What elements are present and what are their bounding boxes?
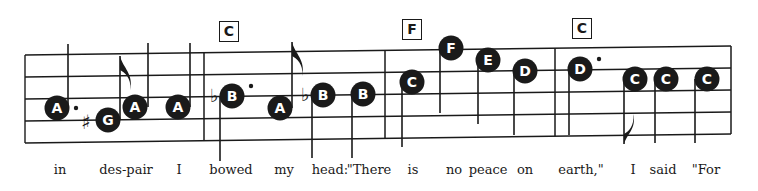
note-letter: C <box>702 71 712 87</box>
eighth-flag <box>624 114 634 144</box>
flat-icon: ♭ <box>301 84 310 105</box>
lyric-syllable: my <box>274 162 294 177</box>
lyric-syllable: peace <box>469 162 508 177</box>
lyric-syllable: is <box>408 162 419 177</box>
chord-symbol: C <box>219 21 239 42</box>
augmentation-dot <box>74 106 78 110</box>
lyric-syllable: I <box>176 162 181 177</box>
note-letter: A <box>173 99 184 115</box>
note-letter: C <box>407 74 417 90</box>
note-letter: D <box>519 63 531 79</box>
lyric-syllable: said <box>650 162 677 177</box>
note-letter: A <box>52 100 63 116</box>
note-letter: B <box>358 86 369 102</box>
chord-symbol: F <box>402 19 422 40</box>
note-letter: E <box>483 52 493 68</box>
eighth-flag <box>292 42 303 76</box>
note-letter: D <box>574 61 586 77</box>
note-letter: A <box>275 100 286 116</box>
note-letter: B <box>227 88 238 104</box>
lyric-syllable: bowed <box>209 162 252 177</box>
lyric-syllable: "There <box>347 162 392 177</box>
lyric-syllable: head: <box>312 162 349 177</box>
lyric-syllable: in <box>54 162 67 177</box>
note-letter: F <box>446 40 456 56</box>
lyric-syllable: I <box>630 162 635 177</box>
flat-icon: ♭ <box>210 85 219 106</box>
lyric-syllable: earth," <box>558 162 603 177</box>
lyric-syllable: "For <box>692 162 720 177</box>
note-letter: C <box>630 71 640 87</box>
note-letter: G <box>102 112 114 128</box>
eighth-flag <box>120 56 131 90</box>
lyric-syllable: des-pair <box>99 162 153 177</box>
note-letter: A <box>130 99 141 115</box>
lyric-syllable: on <box>517 162 533 177</box>
chord-symbol: C <box>572 18 592 39</box>
note-letter: B <box>318 87 329 103</box>
augmentation-dot <box>249 84 253 88</box>
lyric-syllable: no <box>446 162 462 177</box>
staff-line <box>25 46 731 55</box>
note-letter: C <box>661 71 671 87</box>
augmentation-dot <box>597 57 601 61</box>
sharp-icon: ♯ <box>81 110 91 134</box>
